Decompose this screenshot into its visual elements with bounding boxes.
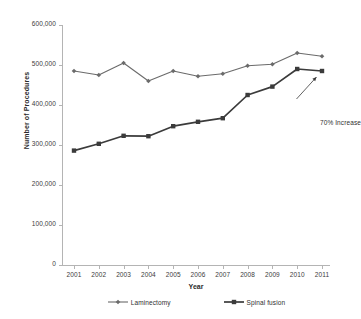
x-tick-label: 2004 (135, 271, 161, 278)
data-point (221, 116, 225, 120)
series-layer (62, 25, 330, 266)
chart-legend: LaminectomySpinal fusion (62, 298, 330, 306)
data-point (171, 69, 176, 74)
x-tick-label: 2005 (160, 271, 186, 278)
y-tick-label: 400,000 (32, 100, 56, 107)
x-tick-label: 2008 (235, 271, 261, 278)
plot-area: 600,000500,000400,000300,000200,000100,0… (62, 25, 330, 265)
data-point (320, 69, 324, 73)
x-tick-mark (99, 266, 100, 269)
data-point (196, 120, 200, 124)
x-tick-label: 2010 (284, 271, 310, 278)
x-axis-title: Year (62, 283, 330, 290)
y-tick-label: 600,000 (32, 20, 56, 27)
data-point (146, 134, 150, 138)
x-tick-label: 2001 (61, 271, 87, 278)
x-tick-label: 2007 (210, 271, 236, 278)
x-tick-mark (272, 266, 273, 269)
data-point (171, 124, 175, 128)
series-line (74, 69, 322, 151)
x-tick-mark (297, 266, 298, 269)
x-tick-mark (198, 266, 199, 269)
y-tick-label: 0 (52, 260, 56, 267)
legend-diamond-marker-icon (107, 298, 129, 306)
x-tick-label: 2011 (309, 271, 335, 278)
x-tick-label: 2002 (86, 271, 112, 278)
annotation-70-percent-increase: 70% Increase (320, 119, 361, 126)
data-point (245, 64, 250, 69)
data-point (270, 84, 274, 88)
series-laminectomy (72, 51, 325, 84)
x-tick-label: 2003 (111, 271, 137, 278)
x-tick-mark (223, 266, 224, 269)
x-tick-mark (173, 266, 174, 269)
legend-label: Laminectomy (131, 299, 171, 306)
x-tick-label: 2006 (185, 271, 211, 278)
data-point (295, 51, 300, 56)
x-tick-mark (322, 266, 323, 269)
data-point (121, 134, 125, 138)
data-point (97, 142, 101, 146)
annotation-arrow (297, 77, 317, 99)
data-point (270, 62, 275, 67)
data-point (196, 74, 201, 79)
data-point (295, 67, 299, 71)
data-point (72, 148, 76, 152)
y-tick-label: 500,000 (32, 60, 56, 67)
data-point (97, 73, 102, 78)
legend-label: Spinal fusion (247, 299, 286, 306)
x-tick-label: 2009 (259, 271, 285, 278)
legend-item-spinal-fusion[interactable]: Spinal fusion (223, 298, 286, 306)
series-spinal-fusion (72, 67, 324, 153)
y-tick-label: 200,000 (32, 180, 56, 187)
y-tick-label: 300,000 (32, 140, 56, 147)
legend-square-marker-icon (223, 298, 245, 306)
legend-item-laminectomy[interactable]: Laminectomy (107, 298, 171, 306)
data-point (320, 54, 325, 59)
data-point (72, 69, 77, 74)
x-tick-mark (74, 266, 75, 269)
x-tick-mark (248, 266, 249, 269)
y-tick-label: 100,000 (32, 220, 56, 227)
y-axis-title: Number of Procedures (23, 41, 30, 181)
x-tick-mark (124, 266, 125, 269)
data-point (221, 72, 226, 77)
data-point (245, 93, 249, 97)
x-tick-mark (148, 266, 149, 269)
